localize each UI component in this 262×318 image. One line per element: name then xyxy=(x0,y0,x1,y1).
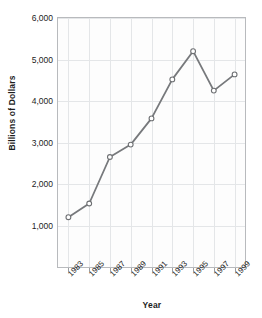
data-point-marker xyxy=(128,142,133,147)
x-tick-mark xyxy=(193,268,194,272)
chart-title: 1983–2000 xyxy=(8,0,61,2)
data-point-marker xyxy=(87,201,92,206)
x-tick-mark xyxy=(152,268,153,272)
y-tick-label: 6,000 xyxy=(7,13,53,23)
series-polyline xyxy=(68,51,234,217)
data-point-marker xyxy=(149,116,154,121)
plot-inner xyxy=(58,18,245,267)
y-tick-label: 1,000 xyxy=(7,221,53,231)
x-tick-mark xyxy=(172,268,173,272)
chart-figure: 1983–2000 Billions of Dollars 1,0002,000… xyxy=(0,0,262,318)
plot-area xyxy=(57,17,246,268)
x-tick-mark xyxy=(131,268,132,272)
y-tick-label: 5,000 xyxy=(7,55,53,65)
x-tick-mark xyxy=(235,268,236,272)
data-point-marker xyxy=(232,72,237,77)
y-tick-label: 2,000 xyxy=(7,179,53,189)
data-point-marker xyxy=(170,77,175,82)
data-point-marker xyxy=(191,49,196,54)
x-axis-ticks: 198319851987198919911993199519971999 xyxy=(57,268,246,302)
data-point-marker xyxy=(211,88,216,93)
x-axis-title: Year xyxy=(57,300,247,310)
data-point-marker xyxy=(66,215,71,220)
y-tick-label: 3,000 xyxy=(7,138,53,148)
data-point-marker xyxy=(108,155,113,160)
y-tick-label: 4,000 xyxy=(7,96,53,106)
x-tick-mark xyxy=(110,268,111,272)
x-tick-mark xyxy=(68,268,69,272)
x-tick-mark xyxy=(214,268,215,272)
y-axis-ticks: 1,0002,0003,0004,0005,0006,000 xyxy=(5,17,53,268)
data-series-line xyxy=(58,18,245,267)
x-tick-mark xyxy=(89,268,90,272)
